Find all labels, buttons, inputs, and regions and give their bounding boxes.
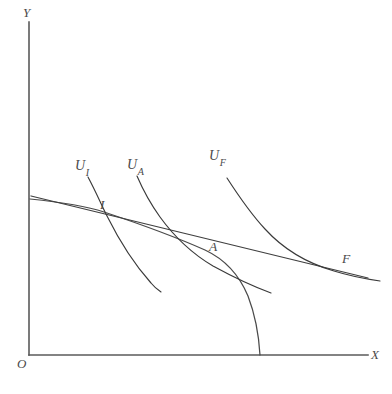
curve-label-ui: UI — [75, 159, 88, 176]
curve-label-ua-base: U — [127, 157, 137, 172]
curve-label-ua-subscript: A — [138, 166, 144, 177]
curve-label-uf-subscript: F — [220, 157, 226, 168]
point-label-i: I — [100, 198, 105, 212]
origin-label: O — [17, 357, 26, 370]
curve-label-ui-subscript: I — [86, 167, 89, 178]
point-label-a: A — [209, 240, 217, 254]
y-axis-label: Y — [23, 6, 30, 19]
curve-label-uf: UF — [209, 149, 225, 166]
economics-diagram: Y X O UI UA UF I A F — [0, 0, 392, 394]
curve-label-uf-base: U — [209, 148, 219, 163]
indifference-curve-ui — [88, 177, 161, 292]
diagram-canvas — [0, 0, 392, 394]
indifference-curve-ua — [137, 176, 271, 293]
x-axis-label: X — [371, 348, 379, 361]
indifference-curve-uf — [227, 178, 380, 281]
point-label-f: F — [342, 252, 350, 266]
curve-label-ui-base: U — [75, 158, 85, 173]
production-possibility-frontier-curve — [30, 199, 260, 355]
curve-label-ua: UA — [127, 158, 143, 175]
